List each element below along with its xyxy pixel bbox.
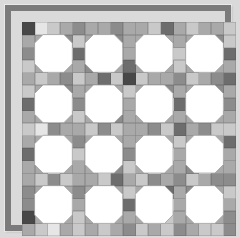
quilt-square <box>123 123 136 136</box>
quilt-square <box>35 160 48 173</box>
quilt-square <box>186 22 199 35</box>
quilt-square <box>60 47 73 60</box>
quilt-square <box>35 173 48 186</box>
quilt-square <box>160 110 173 123</box>
quilt-square <box>148 60 161 73</box>
quilt-square <box>160 98 173 111</box>
quilt-square <box>123 47 136 60</box>
quilt-square <box>110 135 123 148</box>
quilt-square <box>110 60 123 73</box>
quilt-square <box>211 35 224 48</box>
quilt-square <box>22 123 35 136</box>
quilt-square <box>110 211 123 224</box>
quilt-square <box>47 135 60 148</box>
quilt-square <box>35 110 48 123</box>
quilt-square <box>135 123 148 136</box>
quilt-square <box>110 173 123 186</box>
quilt-square <box>148 173 161 186</box>
quilt-scene <box>0 0 240 238</box>
quilt-square <box>223 47 236 60</box>
quilt-square <box>223 223 236 236</box>
quilt-square <box>211 22 224 35</box>
quilt-square <box>22 186 35 199</box>
quilt-square <box>186 223 199 236</box>
quilt-square <box>72 148 85 161</box>
quilt-square <box>85 160 98 173</box>
quilt-square <box>60 135 73 148</box>
quilt-square <box>85 110 98 123</box>
quilt-square <box>135 22 148 35</box>
quilt-square <box>47 47 60 60</box>
quilt-square <box>123 160 136 173</box>
quilt-square <box>160 173 173 186</box>
quilt-square <box>35 47 48 60</box>
quilt-square <box>186 110 199 123</box>
quilt-square <box>135 85 148 98</box>
quilt-square <box>72 160 85 173</box>
quilt-square <box>35 123 48 136</box>
quilt-square <box>186 211 199 224</box>
quilt-square <box>135 211 148 224</box>
quilt-square <box>72 223 85 236</box>
quilt-square <box>72 60 85 73</box>
quilt-square <box>160 47 173 60</box>
quilt-square <box>110 160 123 173</box>
quilt-square <box>173 22 186 35</box>
quilt-square <box>47 60 60 73</box>
quilt-square <box>98 22 111 35</box>
quilt-square <box>110 223 123 236</box>
quilt-square <box>186 98 199 111</box>
quilt-square <box>85 186 98 199</box>
quilt-square <box>123 35 136 48</box>
quilt-square <box>85 211 98 224</box>
quilt-square <box>98 223 111 236</box>
quilt-square <box>198 60 211 73</box>
quilt-square <box>211 72 224 85</box>
quilt-square <box>72 198 85 211</box>
quilt-border-frame <box>5 5 231 231</box>
quilt-square <box>186 60 199 73</box>
quilt-square <box>60 198 73 211</box>
quilt-square <box>198 123 211 136</box>
quilt-square <box>35 186 48 199</box>
quilt-square <box>148 98 161 111</box>
quilt-square <box>22 211 35 224</box>
quilt-square <box>85 60 98 73</box>
quilt-square <box>198 110 211 123</box>
quilt-square <box>211 47 224 60</box>
quilt-square <box>186 35 199 48</box>
quilt-square <box>22 160 35 173</box>
quilt-square <box>35 85 48 98</box>
quilt-square <box>72 211 85 224</box>
quilt-square <box>60 35 73 48</box>
quilt-square <box>198 135 211 148</box>
quilt-square <box>35 98 48 111</box>
quilt-square <box>85 72 98 85</box>
quilt-square <box>160 135 173 148</box>
quilt-square <box>60 22 73 35</box>
quilt-square <box>85 198 98 211</box>
quilt-square <box>47 98 60 111</box>
quilt-square <box>135 98 148 111</box>
quilt-square <box>148 160 161 173</box>
quilt-square <box>85 173 98 186</box>
quilt-square <box>123 135 136 148</box>
quilt-square <box>198 22 211 35</box>
quilt-square <box>22 72 35 85</box>
quilt-square <box>98 85 111 98</box>
quilt-square <box>223 198 236 211</box>
quilt-square <box>47 35 60 48</box>
quilt-square <box>160 223 173 236</box>
quilt-square <box>135 47 148 60</box>
quilt-square <box>160 123 173 136</box>
quilt-square <box>198 198 211 211</box>
quilt-square <box>47 211 60 224</box>
quilt-square <box>35 60 48 73</box>
quilt-square <box>60 60 73 73</box>
quilt-square <box>160 85 173 98</box>
quilt-square <box>223 186 236 199</box>
quilt-square <box>173 110 186 123</box>
quilt-square <box>173 60 186 73</box>
quilt-square <box>211 135 224 148</box>
quilt-square <box>198 223 211 236</box>
